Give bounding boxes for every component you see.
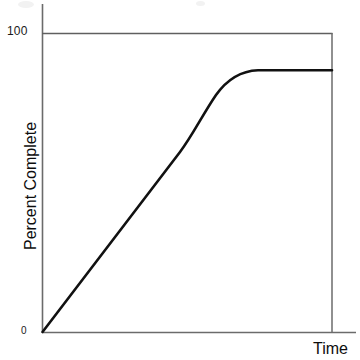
x-axis-title: Time	[313, 341, 348, 357]
y-axis-tick-label-0: 0	[21, 326, 27, 336]
chart-container: 100 0 Percent Complete Time	[0, 0, 360, 360]
y-axis-tick-label-100: 100	[7, 25, 28, 37]
percent-complete-curve	[43, 70, 333, 332]
chart-plot-area	[0, 0, 360, 360]
y-axis-title: Percent Complete	[23, 106, 39, 266]
